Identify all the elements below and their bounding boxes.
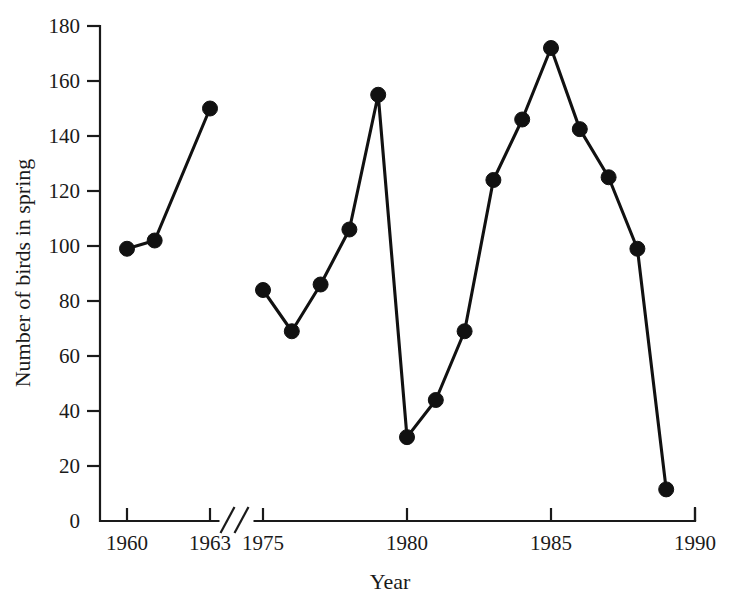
y-tick-label: 40: [59, 399, 80, 423]
y-tick-label: 20: [59, 454, 80, 478]
y-tick-label: 100: [49, 234, 81, 258]
y-axis-title: Number of birds in spring: [10, 159, 35, 388]
data-point: [659, 482, 674, 497]
y-tick-label: 80: [59, 289, 80, 313]
data-point: [544, 41, 559, 56]
y-tick-label: 140: [49, 124, 81, 148]
x-tick-label: 1975: [242, 531, 284, 555]
data-point: [342, 222, 357, 237]
y-tick-label: 120: [49, 179, 81, 203]
data-point: [284, 324, 299, 339]
x-tick-label: 1985: [530, 531, 572, 555]
x-tick-label: 1990: [674, 531, 716, 555]
data-point: [400, 430, 415, 445]
data-markers: [120, 41, 674, 497]
y-tick-label: 160: [49, 69, 81, 93]
axis-break-icon: [220, 507, 254, 533]
data-point: [147, 233, 162, 248]
series-line: [263, 48, 666, 489]
x-axis-title: Year: [370, 569, 411, 594]
data-point: [515, 112, 530, 127]
x-tick-label: 1960: [106, 531, 148, 555]
data-point: [630, 241, 645, 256]
x-tick-label: 1980: [386, 531, 428, 555]
chart-canvas: 196019631975198019851990 020406080100120…: [0, 0, 737, 612]
data-point: [256, 283, 271, 298]
data-point: [120, 241, 135, 256]
series-line: [127, 109, 210, 249]
y-tick-label: 180: [49, 14, 81, 38]
y-tick-label: 0: [70, 509, 81, 533]
data-point: [601, 170, 616, 185]
tick-marks: [87, 26, 695, 521]
data-point: [371, 87, 386, 102]
chart-figure: 196019631975198019851990 020406080100120…: [0, 0, 737, 612]
axes: [100, 26, 695, 521]
data-point: [457, 324, 472, 339]
y-tick-label: 60: [59, 344, 80, 368]
x-tick-label: 1963: [189, 531, 231, 555]
data-point: [313, 277, 328, 292]
data-point: [428, 393, 443, 408]
axis-spines: [100, 26, 695, 521]
data-point: [203, 101, 218, 116]
y-tick-labels: 020406080100120140160180: [49, 14, 81, 533]
x-tick-labels: 196019631975198019851990: [106, 531, 716, 555]
data-point: [572, 122, 587, 137]
data-point: [486, 173, 501, 188]
